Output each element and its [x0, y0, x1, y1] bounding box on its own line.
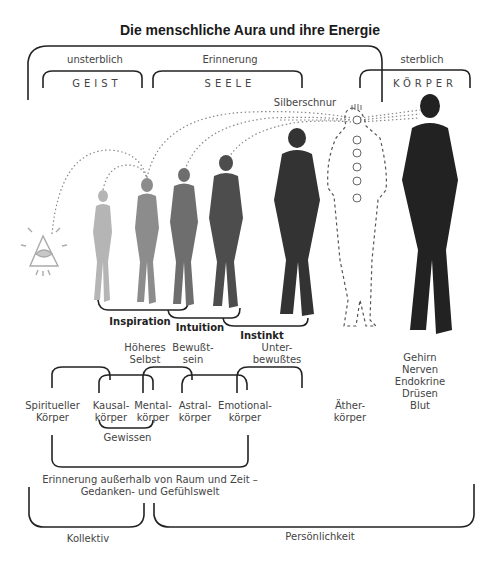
label-sterblich: sterblich — [392, 54, 452, 66]
label-inspiration: Inspiration — [100, 316, 180, 328]
label-persoenlichkeit: Persönlichkeit — [275, 531, 365, 543]
label-instinkt: Instinkt — [232, 330, 292, 342]
label-spiritueller-koerper: Spiritueller Körper — [20, 400, 85, 424]
bracket-instinkt — [223, 318, 308, 326]
physical-list: Gehirn Nerven Endokrine Drüsen Blut — [385, 352, 455, 412]
bracket-bewusstsein — [143, 367, 192, 393]
diagram-title: Die menschliche Aura und ihre Energie — [0, 22, 500, 38]
label-gewissen: Gewissen — [100, 432, 155, 444]
eye-of-providence-icon — [21, 228, 67, 276]
chakra-icons — [352, 104, 361, 202]
etheric-body-outline — [328, 108, 387, 326]
label-kollektiv: Kollektiv — [58, 533, 118, 545]
label-silberschnur: Silberschnur — [270, 97, 340, 109]
label-bewusstsein: Bewußt- sein — [168, 342, 218, 366]
figure-3 — [170, 168, 198, 306]
bracket-gewissen-top — [99, 375, 153, 393]
label-unterbewusstes: Unter- bewußtes — [242, 342, 312, 366]
label-erinnerung: Erinnerung — [195, 54, 265, 66]
label-erinnerung-ausserhalb: Erinnerung außerhalb von Raum und Zeit –… — [40, 474, 260, 498]
label-mentalkoerper: Mental- körper — [128, 400, 178, 424]
figure-1 — [93, 190, 112, 302]
label-aetherkoerper: Äther- körper — [325, 400, 375, 424]
label-koerper: KÖRPER — [385, 78, 465, 90]
figure-4 — [209, 155, 243, 308]
figure-5 — [274, 128, 320, 316]
physical-body-figure — [402, 94, 458, 334]
figure-2 — [135, 178, 159, 304]
label-geist: GEIST — [62, 78, 132, 90]
label-hoeheres-selbst: Höheres Selbst — [120, 342, 170, 366]
label-seele: SEELE — [195, 78, 265, 90]
label-intuition: Intuition — [170, 322, 230, 334]
label-unsterblich: unsterblich — [60, 54, 130, 66]
label-emotionalkoerper: Emotional- körper — [212, 400, 278, 424]
